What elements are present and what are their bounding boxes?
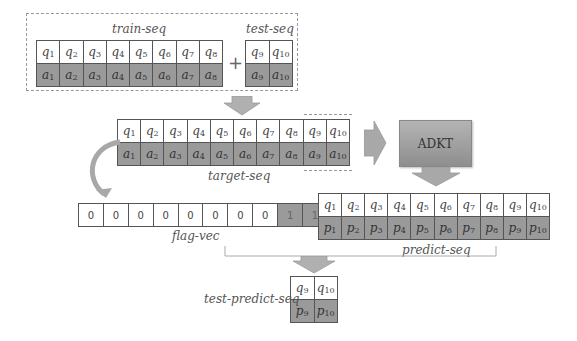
seq-cell: a5	[211, 143, 233, 165]
seq-cell: q6	[153, 41, 175, 63]
train-seq-grid: q1q2q3q4q5q6q7q8a1a2a3a4a5a6a7a8	[36, 40, 223, 87]
right-arrow-icon	[364, 120, 388, 166]
seq-cell: q8	[481, 194, 503, 216]
seq-cell: q1	[37, 41, 59, 63]
test-part-highlight	[304, 114, 352, 171]
seq-cell: a4	[107, 64, 129, 86]
seq-cell: q3	[164, 120, 186, 142]
seq-cell: q4	[388, 194, 410, 216]
seq-cell: q6	[234, 120, 256, 142]
seq-cell: q2	[342, 194, 364, 216]
seq-cell: p1	[319, 217, 341, 239]
flag-vec-grid: 0000000011	[78, 203, 328, 227]
seq-cell: q5	[211, 120, 233, 142]
seq-cell: q7	[458, 194, 480, 216]
seq-cell: a5	[130, 64, 152, 86]
seq-cell: q3	[84, 41, 106, 63]
plus-sign: +	[228, 52, 243, 73]
seq-cell: a3	[84, 64, 106, 86]
seq-cell: q2	[60, 41, 82, 63]
seq-cell: q3	[365, 194, 387, 216]
curved-arrow-icon	[80, 138, 125, 198]
seq-cell: q9	[504, 194, 526, 216]
flag-cell: 0	[129, 204, 153, 226]
predict-seq-grid: q1q2q3q4q5q6q7q8q9q10p1p2p3p4p5p6p7p8p9p…	[318, 193, 550, 240]
flag-cell: 0	[253, 204, 277, 226]
seq-cell: p2	[342, 217, 364, 239]
seq-cell: q4	[188, 120, 210, 142]
seq-cell: q4	[107, 41, 129, 63]
seq-cell: a10	[270, 64, 293, 86]
seq-cell: q2	[141, 120, 163, 142]
seq-cell: q8	[200, 41, 222, 63]
flag-cell: 0	[104, 204, 128, 226]
flag-vec-label: flag-vec	[172, 229, 220, 243]
down-arrow-icon	[222, 96, 262, 116]
seq-cell: a3	[164, 143, 186, 165]
seq-cell: a6	[153, 64, 175, 86]
seq-cell: p9	[504, 217, 526, 239]
test-seq-grid: q9q10a9a10	[245, 40, 293, 87]
flag-cell: 0	[79, 204, 103, 226]
seq-cell: q10	[527, 194, 549, 216]
combine-bracket	[224, 244, 499, 258]
seq-cell: a1	[37, 64, 59, 86]
seq-cell: a2	[141, 143, 163, 165]
flag-cell: 0	[154, 204, 178, 226]
seq-cell: q1	[319, 194, 341, 216]
seq-cell: p5	[411, 217, 433, 239]
flag-cell: 0	[179, 204, 203, 226]
flag-cell: 1	[278, 204, 302, 226]
seq-cell: q6	[435, 194, 457, 216]
seq-cell: p7	[458, 217, 480, 239]
seq-cell: p3	[365, 217, 387, 239]
train-seq-label: train-seq	[112, 22, 166, 36]
seq-cell: p10	[527, 217, 549, 239]
seq-cell: p8	[481, 217, 503, 239]
seq-cell: q8	[280, 120, 302, 142]
down-arrow-icon	[291, 256, 337, 274]
seq-cell: q10	[315, 277, 338, 299]
seq-cell: p4	[388, 217, 410, 239]
seq-cell: a9	[246, 64, 269, 86]
seq-cell: q10	[270, 41, 293, 63]
seq-cell: a6	[234, 143, 256, 165]
seq-cell: q7	[257, 120, 279, 142]
seq-cell: p10	[315, 300, 338, 322]
seq-cell: a8	[280, 143, 302, 165]
seq-cell: a7	[257, 143, 279, 165]
seq-cell: p6	[435, 217, 457, 239]
seq-cell: q9	[246, 41, 269, 63]
down-arrow-icon	[410, 167, 462, 187]
seq-cell: a8	[200, 64, 222, 86]
seq-cell: q5	[411, 194, 433, 216]
adkt-model-box: ADKT	[399, 120, 472, 167]
seq-cell: a7	[177, 64, 199, 86]
target-seq-label: target-seq	[208, 169, 270, 183]
flag-cell: 0	[203, 204, 227, 226]
test-seq-label: test-seq	[246, 22, 294, 36]
seq-cell: a2	[60, 64, 82, 86]
seq-cell: q7	[177, 41, 199, 63]
test-predict-seq-label: test-predict-seq	[204, 292, 300, 306]
flag-cell: 0	[228, 204, 252, 226]
seq-cell: a4	[188, 143, 210, 165]
seq-cell: q5	[130, 41, 152, 63]
